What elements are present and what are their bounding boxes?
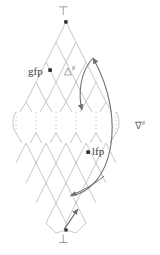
narrowing-operator-superscript: ♯ (142, 120, 145, 126)
node-gfp (48, 68, 52, 72)
lattice-dotted-band (16, 112, 116, 133)
bottom-element-label: ⊥ (58, 232, 68, 247)
arrow-narrowing-outer (70, 58, 112, 196)
lattice-figure: ⊤ ⊥ gfp lfp △♯ ∇♯ (0, 0, 160, 255)
top-element-label: ⊤ (58, 4, 68, 19)
node-top (64, 20, 67, 23)
widening-operator-superscript: ♯ (72, 65, 75, 71)
lfp-label: lfp (92, 145, 104, 157)
node-lfp (86, 150, 90, 154)
gfp-label: gfp (28, 65, 43, 77)
widening-operator-label: △♯ (64, 65, 75, 76)
arrow-widening-lower (64, 209, 78, 229)
lattice-side-contours (13, 112, 119, 133)
narrowing-operator-label: ∇♯ (135, 120, 145, 131)
narrowing-operator-symbol: ∇ (135, 120, 142, 131)
widening-operator-symbol: △ (64, 65, 72, 76)
